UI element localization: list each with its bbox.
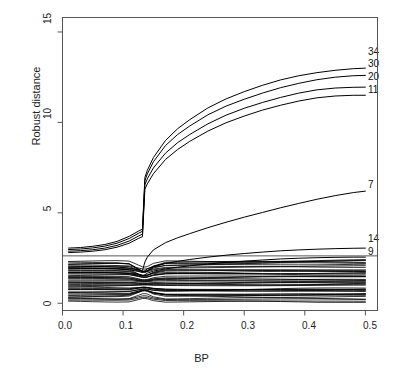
curve-20	[69, 87, 366, 251]
curve-7	[69, 191, 366, 271]
curve-34	[69, 68, 366, 248]
curve-11	[69, 95, 366, 252]
bulk-curves-group	[69, 260, 366, 303]
curve-30	[69, 75, 366, 249]
chart-figure: Robust distance BP 0 5 10 15 0.0 0.1 0.2…	[0, 0, 403, 375]
labeled-curves-group	[69, 68, 366, 276]
plot-canvas	[0, 0, 403, 375]
